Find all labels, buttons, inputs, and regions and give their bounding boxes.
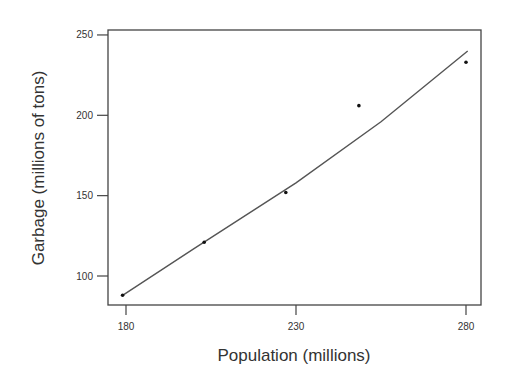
data-points <box>121 60 468 297</box>
y-tick-label: 150 <box>76 190 93 201</box>
y-tick-label: 200 <box>76 110 93 121</box>
x-tick-label: 280 <box>458 321 475 332</box>
y-tick-label: 250 <box>76 29 93 40</box>
x-tick-label: 230 <box>288 321 305 332</box>
data-point <box>464 60 468 64</box>
y-tick-label: 100 <box>76 271 93 282</box>
plot-frame <box>108 30 481 305</box>
x-axis: 180230280 <box>118 305 475 332</box>
data-point <box>357 104 361 108</box>
x-tick-label: 180 <box>118 321 135 332</box>
data-point <box>202 240 206 244</box>
data-point <box>121 293 125 297</box>
y-axis-title: Garbage (millions of tons) <box>29 71 48 266</box>
fitted-line <box>123 51 468 295</box>
data-point <box>284 191 288 195</box>
y-axis: 100150200250 <box>76 29 108 281</box>
x-axis-title: Population (millions) <box>217 346 370 365</box>
scatter-chart: 100150200250 180230280 Population (milli… <box>0 0 511 384</box>
